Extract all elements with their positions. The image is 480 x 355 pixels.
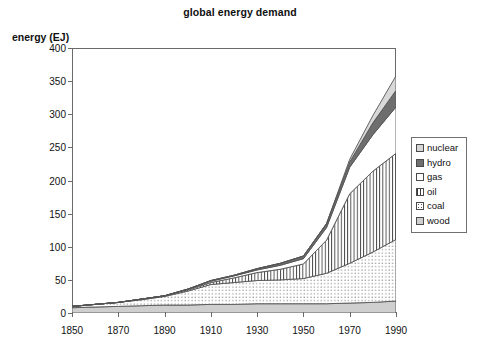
y-tick-mark (68, 147, 73, 148)
legend-label: nuclear (427, 143, 458, 153)
legend-item-gas[interactable]: gas (416, 170, 463, 185)
y-tick-label: 50 (30, 274, 66, 285)
chart-root: global energy demand energy (EJ) 0501001… (0, 0, 480, 355)
y-axis-label: energy (EJ) (12, 31, 69, 43)
legend-item-nuclear[interactable]: nuclear (416, 141, 463, 156)
y-tick-mark (68, 247, 73, 248)
y-tick-label: 300 (30, 109, 66, 120)
y-tick-mark (68, 81, 73, 82)
x-tick-label: 1850 (52, 325, 92, 336)
y-tick-label: 350 (30, 76, 66, 87)
legend-item-hydro[interactable]: hydro (416, 156, 463, 171)
legend-swatch-hydro-icon (416, 159, 424, 167)
y-tick-label: 200 (30, 175, 66, 186)
y-tick-label: 150 (30, 208, 66, 219)
legend-label: hydro (427, 158, 451, 168)
x-tick-label: 1870 (98, 325, 138, 336)
legend-swatch-nuclear-icon (416, 144, 424, 152)
x-tick-mark (350, 312, 351, 317)
x-tick-mark (303, 312, 304, 317)
x-tick-label: 1970 (330, 325, 370, 336)
x-tick-label: 1910 (191, 325, 231, 336)
y-tick-label: 400 (30, 43, 66, 54)
legend-swatch-gas-icon (416, 173, 424, 181)
y-tick-mark (68, 181, 73, 182)
legend-label: oil (427, 187, 437, 197)
y-tick-mark (68, 280, 73, 281)
x-tick-mark (211, 312, 212, 317)
x-tick-mark (165, 312, 166, 317)
legend-label: coal (427, 201, 444, 211)
y-tick-mark (68, 214, 73, 215)
legend-item-coal[interactable]: coal (416, 199, 463, 214)
y-tick-mark (68, 114, 73, 115)
legend-item-oil[interactable]: oil (416, 185, 463, 200)
x-tick-mark (257, 312, 258, 317)
legend-swatch-coal-icon (416, 202, 424, 210)
legend-swatch-oil-icon (416, 188, 424, 196)
legend-label: gas (427, 172, 442, 182)
x-tick-mark (118, 312, 119, 317)
stacked-area-plot (72, 48, 396, 313)
y-tick-mark (68, 48, 73, 49)
legend-item-wood[interactable]: wood (416, 214, 463, 229)
x-tick-mark (396, 312, 397, 317)
x-tick-label: 1890 (145, 325, 185, 336)
legend: nuclearhydrogasoilcoalwood (411, 137, 467, 233)
y-tick-label: 100 (30, 241, 66, 252)
x-tick-label: 1950 (283, 325, 323, 336)
legend-swatch-wood-icon (416, 217, 424, 225)
x-tick-label: 1990 (376, 325, 416, 336)
x-tick-mark (72, 312, 73, 317)
chart-title: global energy demand (0, 6, 480, 18)
y-tick-label: 250 (30, 142, 66, 153)
x-tick-label: 1930 (237, 325, 277, 336)
legend-label: wood (427, 216, 450, 226)
y-tick-label: 0 (30, 308, 66, 319)
